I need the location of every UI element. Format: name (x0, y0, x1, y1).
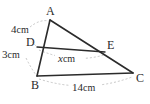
dimension-unit-bc: cm (83, 82, 95, 93)
dimension-label-ad: 4cm (11, 24, 29, 35)
dimension-value-bc: 14 (72, 81, 83, 93)
vertex-label-a: A (46, 5, 55, 17)
vertex-label-e: E (107, 39, 114, 51)
dimension-label-bc: 14cm (72, 82, 95, 93)
leader-ad (30, 21, 49, 27)
dimension-label-de: xcm (58, 53, 75, 64)
vertex-label-b: B (31, 79, 39, 91)
vertex-label-c: C (136, 72, 144, 84)
dimension-unit-ad: cm (17, 24, 29, 35)
geometry-figure: A B C D E 4cm 3cm xcm 14cm (0, 0, 150, 104)
leader-db (26, 58, 36, 75)
segment-bc (37, 73, 133, 76)
vertex-label-d: D (26, 36, 35, 48)
dimension-unit-de: cm (63, 53, 75, 64)
dimension-unit-db: cm (8, 49, 20, 60)
segment-ac (50, 20, 133, 73)
dimension-label-db: 3cm (2, 49, 20, 60)
